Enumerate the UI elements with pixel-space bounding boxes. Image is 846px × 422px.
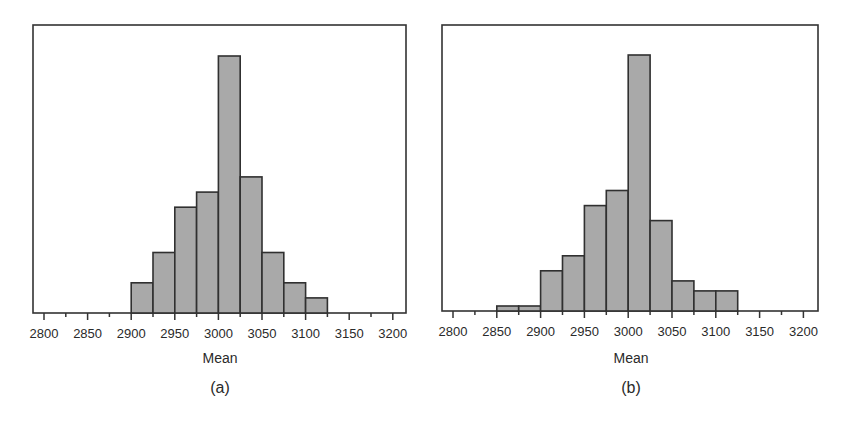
histogram-bar	[131, 283, 153, 313]
histogram-bar	[694, 291, 716, 311]
x-tick-label: 3200	[789, 324, 818, 339]
histogram-bar	[628, 55, 650, 311]
bars-a	[131, 56, 327, 313]
histogram-bar	[262, 253, 284, 314]
x-tick-label: 3100	[701, 324, 730, 339]
histogram-bar	[218, 56, 240, 313]
histogram-bar	[153, 253, 175, 314]
bars-b	[497, 55, 738, 311]
x-tick-label: 2900	[117, 326, 146, 341]
panel-a: 280028502900295030003050310031503200 Mea…	[30, 25, 408, 396]
x-tick-label: 2800	[30, 326, 59, 341]
histogram-bar	[716, 291, 738, 311]
x-axis-label-b: Mean	[613, 350, 648, 366]
histogram-bar	[650, 221, 672, 311]
histogram-bar	[284, 283, 306, 313]
histogram-bar	[563, 256, 585, 311]
x-tick-label: 2850	[482, 324, 511, 339]
histogram-bar	[584, 206, 606, 311]
histogram-bar	[606, 191, 628, 312]
histogram-bar	[497, 306, 519, 311]
x-axis-a: 280028502900295030003050310031503200	[30, 313, 408, 341]
panel-label-a: (a)	[210, 379, 230, 396]
x-axis-label-a: Mean	[202, 350, 237, 366]
x-tick-label: 3200	[378, 326, 407, 341]
x-tick-label: 2800	[439, 324, 468, 339]
histogram-bar	[541, 271, 563, 311]
histogram-bar	[240, 177, 262, 313]
histogram-bar	[306, 298, 328, 313]
x-tick-label: 3050	[248, 326, 277, 341]
histogram-bar	[197, 192, 219, 313]
x-tick-label: 3000	[614, 324, 643, 339]
x-tick-label: 2950	[160, 326, 189, 341]
x-tick-label: 3000	[204, 326, 233, 341]
histogram-figure: 280028502900295030003050310031503200 Mea…	[0, 0, 846, 422]
panel-label-b: (b)	[621, 379, 641, 396]
x-tick-label: 2900	[526, 324, 555, 339]
panel-b: 280028502900295030003050310031503200 Mea…	[439, 25, 818, 396]
x-tick-label: 3050	[658, 324, 687, 339]
x-tick-label: 2850	[73, 326, 102, 341]
histogram-bar	[175, 207, 197, 313]
x-tick-label: 3150	[745, 324, 774, 339]
x-tick-label: 3150	[335, 326, 364, 341]
x-axis-b: 280028502900295030003050310031503200	[439, 311, 818, 339]
histogram-bar	[672, 281, 694, 311]
x-tick-label: 2950	[570, 324, 599, 339]
x-tick-label: 3100	[291, 326, 320, 341]
histogram-bar	[519, 306, 541, 311]
